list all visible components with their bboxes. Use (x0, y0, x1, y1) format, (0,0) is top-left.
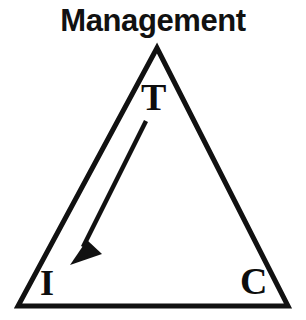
arrow-head (70, 240, 102, 265)
arrow-shaft (83, 121, 146, 247)
management-triangle-diagram: Management T I C (0, 0, 306, 320)
vertex-label-information: I (40, 265, 54, 301)
vertex-label-technology: T (141, 78, 166, 116)
vertex-label-communication: C (240, 262, 267, 300)
